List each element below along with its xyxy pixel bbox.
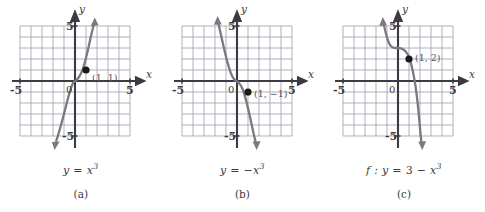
equation-c-exp: 3 bbox=[437, 162, 442, 171]
panel-b: (1, −1) 5 -5 -5 5 0 x y y = −x3 (b) bbox=[162, 0, 324, 212]
equation-b-exp: 3 bbox=[260, 162, 265, 171]
curve-c-arrow-bottom bbox=[418, 141, 426, 150]
point-label-a: (1, 1) bbox=[92, 72, 118, 83]
y-axis-label-b: y bbox=[240, 3, 248, 15]
xtick-right-a: 5 bbox=[126, 84, 134, 97]
curve-a-arrow-bottom bbox=[52, 141, 60, 149]
panel-tag-c: (c) bbox=[323, 188, 485, 200]
y-axis-label-c: y bbox=[401, 3, 409, 15]
ytick-bottom-a: -5 bbox=[62, 130, 74, 143]
x-axis-arrow-b bbox=[298, 77, 306, 84]
graph-c-svg: (1, 2) 5 -5 -5 5 0 x y bbox=[323, 0, 485, 165]
point-marker-b bbox=[244, 88, 251, 95]
curve-c-arrow-top bbox=[379, 17, 387, 26]
graph-b-svg: (1, −1) 5 -5 -5 5 0 x y bbox=[162, 0, 324, 165]
ytick-bottom-c: -5 bbox=[385, 130, 397, 143]
plot-b: (1, −1) 5 -5 -5 5 0 x y bbox=[162, 0, 324, 165]
x-axis-arrow-c bbox=[459, 77, 467, 84]
origin-label-a: 0 bbox=[66, 84, 72, 95]
curve-b-arrow-top bbox=[213, 16, 221, 25]
axes-b bbox=[174, 12, 306, 148]
y-axis-label-a: y bbox=[78, 3, 86, 15]
equation-c-const: 3 bbox=[406, 164, 413, 177]
origin-label-c: 0 bbox=[389, 84, 395, 95]
ytick-top-a: 5 bbox=[66, 20, 74, 33]
xtick-left-c: -5 bbox=[333, 84, 345, 97]
point-marker-c bbox=[406, 55, 413, 62]
equation-label-c: f : y = 3 − x3 bbox=[323, 162, 485, 177]
equation-b-sign: − bbox=[244, 164, 254, 177]
axes-c bbox=[335, 12, 467, 148]
x-axis-label-a: x bbox=[146, 68, 152, 80]
panel-tag-a: (a) bbox=[0, 188, 162, 200]
equation-label-a: y = x3 bbox=[0, 162, 162, 177]
curve-b-arrow-bottom bbox=[252, 141, 260, 150]
graph-a-svg: (1, 1) 5 -5 -5 5 0 x y bbox=[0, 0, 162, 165]
xtick-left-b: -5 bbox=[172, 84, 184, 97]
panel-tag-b: (b) bbox=[162, 188, 324, 200]
figure-row: (1, 1) 5 -5 -5 5 0 x y y = x3 (a) bbox=[0, 0, 485, 212]
equation-label-b: y = −x3 bbox=[162, 162, 324, 177]
panel-c: (1, 2) 5 -5 -5 5 0 x y f : y = 3 − x3 (c… bbox=[323, 0, 485, 212]
ytick-bottom-b: -5 bbox=[224, 130, 236, 143]
x-axis-label-b: x bbox=[308, 68, 314, 80]
ytick-top-b: 5 bbox=[228, 20, 236, 33]
point-marker-a bbox=[82, 66, 89, 73]
point-label-b: (1, −1) bbox=[254, 88, 287, 99]
plot-a: (1, 1) 5 -5 -5 5 0 x y bbox=[0, 0, 162, 165]
x-axis-label-c: x bbox=[469, 68, 475, 80]
point-label-c: (1, 2) bbox=[415, 52, 441, 63]
equation-a-eq: = bbox=[73, 164, 83, 177]
equation-b-eq: = bbox=[230, 164, 240, 177]
equation-c-eq: = bbox=[392, 164, 402, 177]
equation-c-prefix: f : bbox=[366, 164, 378, 177]
origin-label-b: 0 bbox=[228, 84, 234, 95]
xtick-right-c: 5 bbox=[449, 84, 457, 97]
x-axis-arrow-a bbox=[136, 77, 144, 84]
curve-a-arrow-top bbox=[91, 18, 99, 27]
panel-a: (1, 1) 5 -5 -5 5 0 x y y = x3 (a) bbox=[0, 0, 162, 212]
ytick-top-c: 5 bbox=[389, 20, 397, 33]
plot-c: (1, 2) 5 -5 -5 5 0 x y bbox=[323, 0, 485, 165]
xtick-right-b: 5 bbox=[288, 84, 296, 97]
equation-a-exp: 3 bbox=[93, 162, 98, 171]
xtick-left-a: -5 bbox=[10, 84, 22, 97]
equation-c-sign: − bbox=[417, 164, 427, 177]
